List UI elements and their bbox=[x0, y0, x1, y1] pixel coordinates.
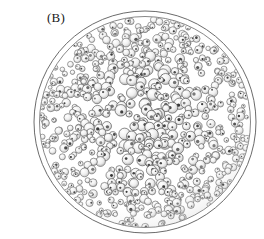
colony-shading bbox=[40, 17, 250, 227]
cell-shading-arc bbox=[143, 228, 147, 229]
specimen-illustration bbox=[0, 0, 264, 239]
figure-panel: (B) bbox=[0, 0, 264, 239]
